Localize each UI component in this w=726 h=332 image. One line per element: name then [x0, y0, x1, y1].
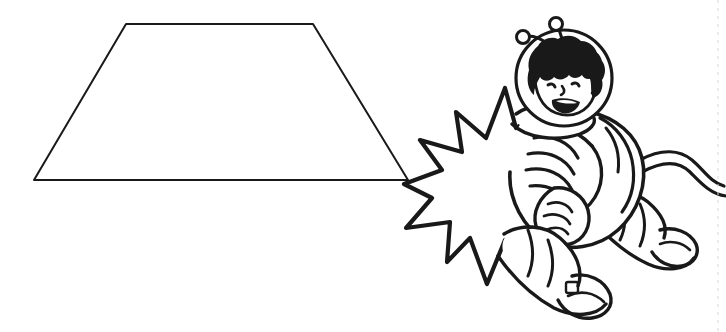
line-art-artboard — [0, 0, 726, 332]
page-canvas — [0, 0, 726, 332]
